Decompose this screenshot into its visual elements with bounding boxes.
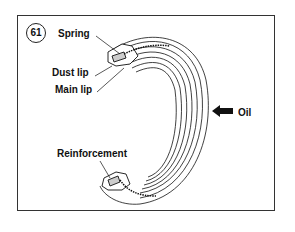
oil-seal-illustration xyxy=(0,0,295,232)
oil-arrow-icon xyxy=(212,105,233,117)
